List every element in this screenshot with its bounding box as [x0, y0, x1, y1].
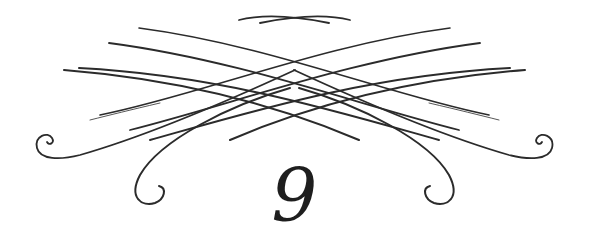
chapter-number: 9: [0, 160, 589, 232]
chapter-heading: 9: [0, 0, 589, 247]
